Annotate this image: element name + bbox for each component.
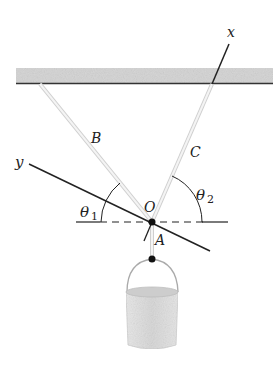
y-axis [29,164,210,251]
ceiling [16,68,273,84]
svg-text:2: 2 [207,193,214,206]
cable-a-label: A [153,232,165,248]
theta2-label: θ 2 [196,186,214,206]
cable-b [40,84,152,222]
y-axis-label: y [14,153,24,171]
force-diagram: x y B C O A θ 1 θ 2 [0,0,276,365]
origin-point [149,219,156,226]
cable-b-label: B [90,130,101,146]
x-axis-label: x [227,24,235,40]
cable-c-label: C [190,144,201,160]
svg-text:1: 1 [91,210,98,223]
theta1-label: θ 1 [80,203,98,223]
handle-dot [149,256,156,263]
svg-text:θ: θ [80,203,89,221]
origin-label: O [144,199,156,215]
svg-text:θ: θ [196,186,205,204]
bucket [126,256,178,350]
